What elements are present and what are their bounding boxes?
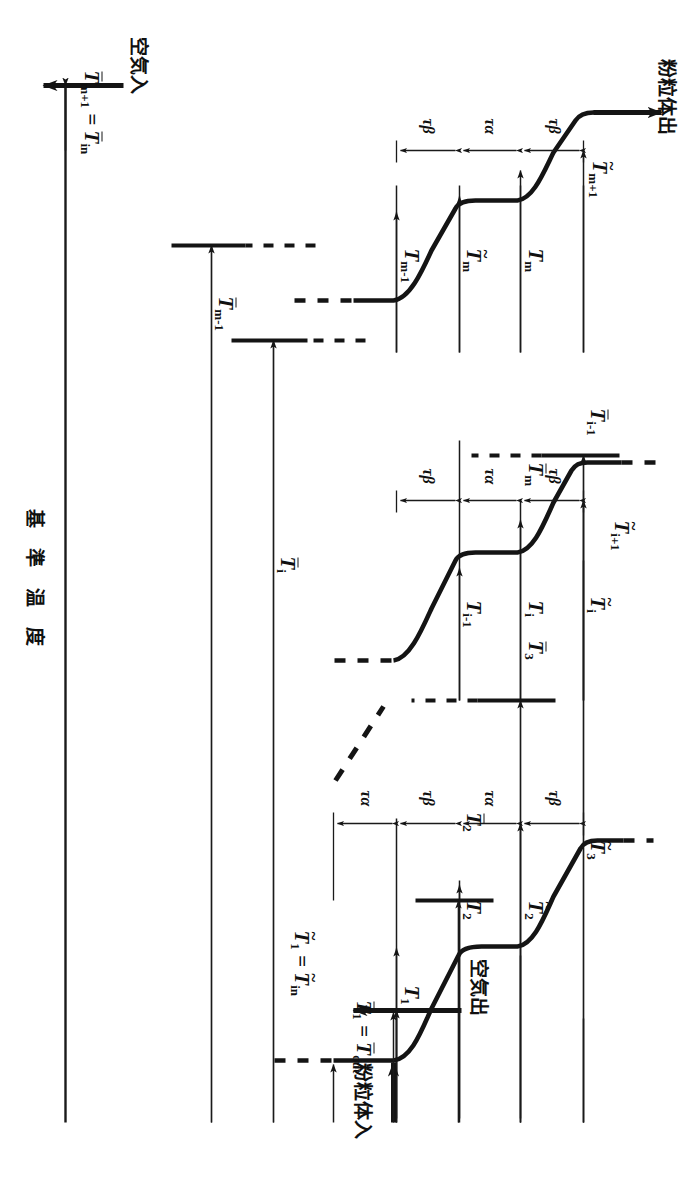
label-bar-T3: T3 [523, 640, 545, 659]
overbar [373, 1042, 375, 1052]
bar-accent-Tin: T [80, 130, 101, 143]
overbar [101, 71, 103, 81]
overbar [101, 131, 103, 141]
bar-Tm-subscript: m [522, 475, 537, 486]
overbar [297, 557, 299, 567]
tau-label-b1: τβ [419, 790, 435, 805]
T1-subscript: 1 [398, 998, 413, 1005]
tilde-T3-subscript: 3 [584, 853, 599, 860]
bar-Tm-base: T [523, 462, 547, 475]
bar-accent-Tm1: T [80, 70, 101, 83]
Ti-1-subscript: i-1 [460, 613, 475, 627]
air-outlet-label: 空気出 [468, 958, 487, 1015]
tilde-accent-Ti: ~T [586, 596, 607, 609]
label-Ti-minus-1: Ti-1 [461, 600, 483, 627]
label-T2: T2 [461, 900, 483, 919]
tilde-T1-subscript: 1 [288, 943, 303, 950]
Tm-subscript: m [522, 261, 537, 272]
bar-Tout-base: T [351, 1042, 375, 1055]
equals-sign: = [351, 1025, 375, 1037]
tilde-accent-T1in: ~T [290, 930, 311, 943]
bar-Tin-base: T [79, 130, 103, 143]
tau-label-b4: τβ [545, 468, 561, 483]
Tm-1-subscript: m-1 [398, 261, 413, 283]
solid-outlet-label: 粉粒体出 [656, 58, 675, 134]
tau-label-a3: τα [481, 468, 497, 484]
tau-label-b5: τβ [419, 118, 435, 133]
T2-base: T [461, 900, 485, 913]
Tm-base: T [523, 248, 547, 261]
Ti-base: T [523, 600, 547, 613]
equals-sign: = [79, 113, 103, 125]
tilde-glyph: ~ [603, 596, 612, 606]
air-inlet-label: 空気入 [128, 36, 147, 93]
label-T1: T1 [399, 985, 421, 1004]
tilde-accent-T3: ~T [586, 840, 607, 853]
overbar [607, 409, 609, 419]
bar-accent-T2: T [462, 812, 483, 825]
label-tilde-T2: ~T2 [523, 900, 545, 919]
Ti-1-base: T [461, 600, 485, 613]
bar-Tm-1-base: T [213, 296, 237, 309]
diagram-vector-layer [0, 0, 683, 1178]
bar-accent-Tm: T [524, 462, 545, 475]
bar-accent-T1out: T [352, 1000, 373, 1013]
tilde-T2-subscript: 2 [522, 913, 537, 920]
Tm-1-base: T [399, 248, 423, 261]
tilde-glyph: ~ [605, 160, 614, 170]
label-solid-inlet-relation: ~T1 = ~Tin [289, 930, 311, 996]
tilde-glyph: ~ [603, 840, 612, 850]
tilde-glyph: ~ [627, 520, 636, 530]
tilde-Tin-subscript: in [288, 985, 303, 996]
tau-label-a2: τα [481, 790, 497, 806]
label-bar-Tm-minus-1: Tm-1 [213, 296, 235, 331]
Ti-subscript: i [522, 613, 537, 617]
bar-Tm1-subscript: m+1 [78, 83, 93, 108]
bar-Ti-base: T [275, 556, 299, 569]
bar-accent-Ti: T [276, 556, 297, 569]
bar-Tout-subscript: out [350, 1055, 365, 1073]
bar-T2-subscript: 2 [460, 825, 475, 832]
tilde-accent-Ti1: ~T [610, 520, 631, 533]
label-air-outlet-relation: T1 = Tout [351, 1000, 373, 1073]
bar-Tin-subscript: in [78, 143, 93, 154]
tau-label-b2: τβ [545, 790, 561, 805]
label-Ti: Ti [523, 600, 545, 616]
tau-label-a1: τα [357, 790, 373, 806]
overbar [235, 297, 237, 307]
T1-base: T [399, 985, 423, 998]
label-tilde-Tm: ~Tm [461, 248, 483, 272]
tilde-Tm-subscript: m [460, 261, 475, 272]
bar-accent-T3: T [524, 640, 545, 653]
figure-root: 粉粒体出 粉粒体入 空気出 空気入 基 準 温 度 T1 T2 Ti-1 Ti … [0, 0, 683, 1178]
label-Tm-minus-1: Tm-1 [399, 248, 421, 283]
bar-T1-base: T [351, 1000, 375, 1013]
tilde-glyph: ~ [479, 248, 488, 258]
tilde-glyph: ~ [541, 900, 550, 910]
overbar [483, 813, 485, 823]
label-bar-T2: T2 [461, 812, 483, 831]
tau-label-a4: τα [481, 118, 497, 134]
tilde-accent-Tm1: ~T [588, 160, 609, 173]
bar-T1-subscript: 1 [350, 1013, 365, 1020]
bar-accent-Tout: T [352, 1042, 373, 1055]
label-tilde-Tm-plus-1: ~Tm+1 [587, 160, 609, 198]
tilde-accent-Tin: ~T [290, 972, 311, 985]
tilde-Ti1-subscript: i+1 [608, 533, 623, 551]
tilde-accent-Tm: ~T [462, 248, 483, 261]
diagram-canvas: 粉粒体出 粉粒体入 空気出 空気入 基 準 温 度 T1 T2 Ti-1 Ti … [0, 0, 683, 1178]
solid-temperature-pointers [396, 150, 583, 1118]
tau-label-b3: τβ [419, 468, 435, 483]
curve-break-dashes [335, 706, 383, 780]
tilde-accent-T2: ~T [524, 900, 545, 913]
bar-Tm-1-subscript: m-1 [212, 309, 227, 331]
tilde-glyph: ~ [307, 972, 316, 982]
stage-rules-solid [396, 185, 583, 1122]
bar-T2-base: T [461, 812, 485, 825]
equals-sign: = [289, 955, 313, 967]
bar-Ti-1-subscript: i-1 [584, 421, 599, 435]
bar-accent-Ti1m: T [586, 408, 607, 421]
tau-label-b6: τβ [545, 118, 561, 133]
label-tilde-Ti: ~Ti [585, 596, 607, 612]
tilde-glyph: ~ [307, 930, 316, 940]
